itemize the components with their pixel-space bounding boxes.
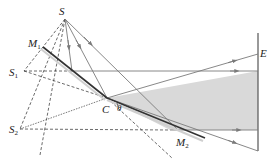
interference-region xyxy=(107,71,258,130)
label-s: S xyxy=(59,5,65,17)
incident-ray-arrows xyxy=(68,37,91,48)
incident-rays xyxy=(65,19,180,132)
label-m1: M1 xyxy=(27,37,41,51)
ray-s2-c xyxy=(20,98,107,129)
diagram-svg: S M1 S1 S2 C θ M2 E xyxy=(0,0,274,166)
label-m2: M2 xyxy=(175,136,189,150)
label-s2: S2 xyxy=(9,123,19,137)
fresnel-mirror-diagram: S M1 S1 S2 C θ M2 E xyxy=(0,0,274,166)
label-c: C xyxy=(102,103,110,115)
mirror-m1 xyxy=(43,47,107,98)
label-e: E xyxy=(259,47,267,59)
label-theta: θ xyxy=(117,103,122,113)
label-s1: S1 xyxy=(9,66,19,80)
